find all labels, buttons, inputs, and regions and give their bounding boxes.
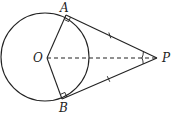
radius-OB	[47, 58, 62, 99]
label-O: O	[33, 51, 43, 65]
label-A: A	[59, 1, 69, 15]
tangent-AP	[66, 15, 157, 58]
tangent-BP	[62, 58, 157, 99]
tangent-diagram: A B O P	[0, 0, 174, 114]
circle	[1, 13, 89, 101]
angle-arc-BPO	[142, 58, 143, 64]
angle-arc-APO	[142, 52, 143, 58]
radius-OA	[47, 15, 66, 58]
label-B: B	[58, 101, 68, 114]
label-P: P	[161, 51, 171, 65]
